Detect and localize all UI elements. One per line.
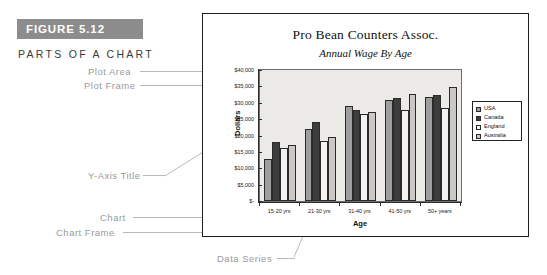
callout-y-axis-title: Y-Axis Title [88,170,141,181]
callout-chart: Chart [100,212,126,223]
figure-page: FIGURE 5.12 PARTS OF A CHART Plot Area P… [0,0,547,275]
x-axis-line [258,202,462,203]
y-axis-tick-mark [258,86,262,87]
chart-frame: Pro Bean Counters Assoc. Annual Wage By … [202,13,529,237]
bar-england [280,148,288,201]
legend-item: Australia [476,132,521,141]
x-axis-tick-mark [420,202,421,206]
x-axis-tick-mark [339,202,340,206]
bar-canada [433,95,441,201]
legend-swatch-icon [476,116,481,121]
bar-usa [305,129,313,201]
bar-usa [385,100,393,201]
x-axis-tick-mark [259,202,260,206]
y-axis-tick-mark [258,136,262,137]
figure-number-label: FIGURE 5.12 [26,23,105,35]
bar-england [320,141,328,201]
y-axis-tick-mark [258,70,262,71]
legend-item: Canada [476,114,521,123]
chart-subtitle: Annual Wage By Age [203,47,528,59]
bar-canada [353,110,361,201]
x-axis-tick-label: 15-20 yrs [268,208,290,214]
bar-canada [272,142,280,201]
callout-plot-frame: Plot Frame [84,80,135,91]
chart-legend: USACanadaEnglandAustralia [472,101,522,141]
legend-swatch-icon [476,107,481,112]
bar-england [360,114,368,201]
y-axis-tick-label: $35,000 [203,83,258,89]
x-axis-tick-label: 41-50 yrs [388,208,410,214]
bar-england [401,110,409,201]
y-axis-tick-label: $10,000 [203,165,258,171]
y-axis-title: Dollars [233,111,242,136]
callout-chart-frame: Chart Frame [56,227,115,238]
x-axis-tick-mark [380,202,381,206]
y-axis-tick-label: $20,000 [203,133,258,139]
legend-swatch-icon [476,134,481,139]
bar-group [300,70,340,201]
bar-england [441,108,449,201]
bar-group [381,70,421,201]
y-axis-tick-label: $40,000 [203,67,258,73]
bar-australia [409,94,417,201]
y-axis-tick-mark [258,185,262,186]
leader-y-axis-title [143,175,165,176]
chart-title: Pro Bean Counters Assoc. [203,27,528,43]
plot-frame [259,69,462,202]
y-axis-tick-label: $15,000 [203,149,258,155]
bar-canada [312,122,320,201]
legend-label: USA [484,106,496,112]
y-axis-tick-label: $- [203,198,258,204]
y-axis-tick-mark [258,152,262,153]
y-axis-tick-label: $5,000 [203,182,258,188]
x-axis-tick-label: 21-30 yrs [308,208,330,214]
bar-australia [449,87,457,201]
legend-swatch-icon [476,125,481,130]
legend-label: Canada [484,115,504,121]
bar-usa [264,159,272,201]
x-axis-tick-label: 31-40 yrs [348,208,370,214]
leader-chart [133,217,211,218]
bar-australia [368,112,376,201]
figure-caption: PARTS OF A CHART [18,48,154,60]
legend-label: England [484,124,505,130]
leader-chart-frame [123,232,203,233]
x-axis-tick-mark [460,202,461,206]
bar-group [421,70,461,201]
bar-australia [288,145,296,201]
legend-item: USA [476,105,521,114]
bar-canada [393,98,401,201]
y-axis-tick-label: $30,000 [203,100,258,106]
bar-usa [345,106,353,201]
callout-data-series: Data Series [217,253,272,264]
y-axis-tick-mark [258,103,262,104]
callout-plot-area: Plot Area [88,66,131,77]
bar-australia [328,137,336,201]
bar-group [340,70,380,201]
y-axis-tick-mark [258,119,262,120]
bar-group [260,70,300,201]
x-axis-tick-label: 50+ years [428,208,452,214]
y-axis-tick-label: $25,000 [203,116,258,122]
y-axis-tick-mark [258,168,262,169]
x-axis-tick-mark [299,202,300,206]
plot-area [260,70,461,201]
bar-usa [425,97,433,201]
x-axis-title: Age [353,219,367,228]
legend-label: Australia [484,133,506,139]
figure-number-badge: FIGURE 5.12 [17,19,143,39]
legend-item: England [476,123,521,132]
